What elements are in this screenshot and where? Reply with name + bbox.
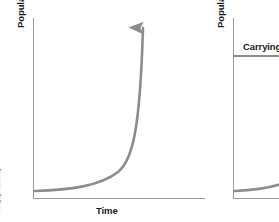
panel-exponential-growth: Population size Time — [0, 0, 210, 222]
panel-logistic-growth: Population size Carrying capacity — [215, 0, 279, 222]
logistic-curve-graphic — [215, 0, 279, 222]
population-growth-figure: Population size Time Population size Car… — [0, 0, 279, 222]
copyright-credit: © Cengage Learning — [0, 168, 1, 218]
exponential-curve-graphic — [0, 0, 210, 222]
